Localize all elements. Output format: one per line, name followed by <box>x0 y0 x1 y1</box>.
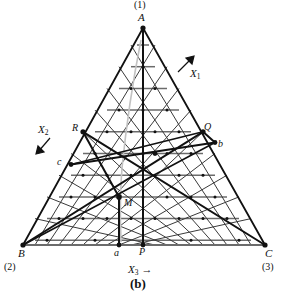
node-A <box>140 25 145 30</box>
point-label-a: a <box>114 248 119 258</box>
point-label-c: c <box>57 157 61 167</box>
construction-lines <box>23 28 265 245</box>
node-b <box>213 140 218 145</box>
node-R <box>80 129 85 134</box>
figure-caption: (b) <box>130 277 146 290</box>
axis-label-x3: X3→ <box>128 264 152 276</box>
node-M <box>116 194 122 200</box>
point-label-b: b <box>218 139 223 149</box>
vertex-label-C: C <box>265 248 272 259</box>
point-label-Q: Q <box>204 122 211 132</box>
axis-label-x2: X2 <box>38 124 48 136</box>
axis-label-x2-text: X <box>38 123 45 135</box>
node-center <box>153 151 158 156</box>
vertex-label-B: B <box>18 248 25 259</box>
vertex-number-3: (3) <box>262 262 274 272</box>
vertex-number-1: (1) <box>134 0 146 10</box>
line-R-M <box>83 132 119 197</box>
axis-label-x2-sub: 2 <box>45 128 49 137</box>
axis-label-x1-sub: 1 <box>197 72 201 81</box>
vertex-number-2: (2) <box>4 262 16 272</box>
axis-label-x1-text: X <box>190 67 197 79</box>
point-label-P: P <box>139 247 145 257</box>
ternary-diagram-figure: A (1) B (2) C (3) X1 X2 X3→ R Q b c M a … <box>0 0 287 297</box>
vertex-label-A: A <box>138 12 145 23</box>
axis-label-x3-arrow: → <box>141 263 152 275</box>
axis-label-x1: X1 <box>190 68 200 80</box>
axis-label-x3-text: X <box>128 263 135 275</box>
node-c <box>69 162 74 167</box>
point-label-R: R <box>72 123 78 133</box>
point-label-M: M <box>124 198 132 208</box>
